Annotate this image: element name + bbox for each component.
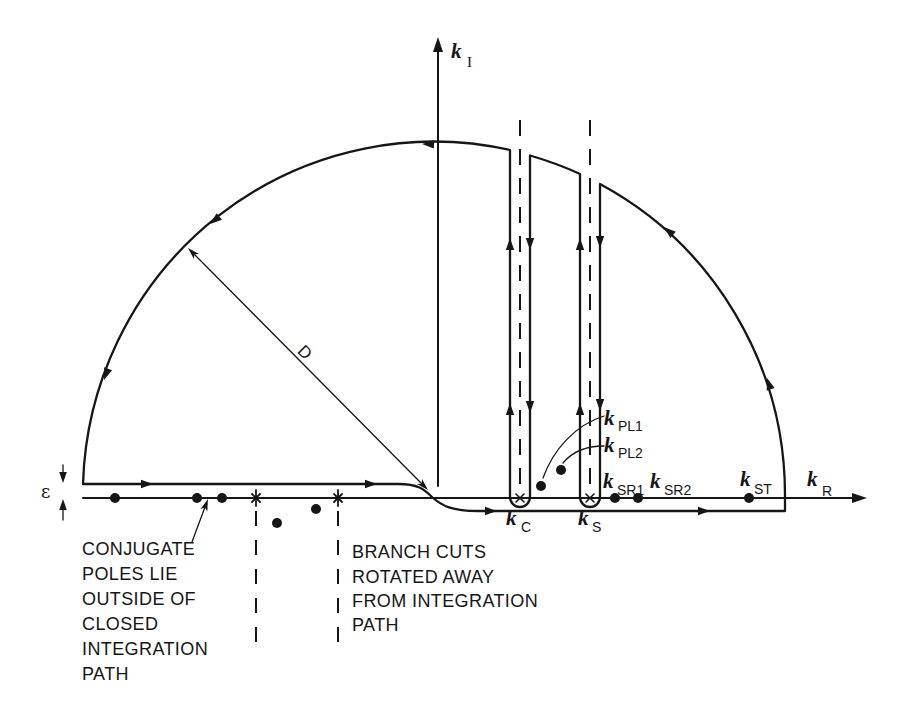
- label-symbol: k: [603, 469, 614, 493]
- arrow-up-icon: [433, 37, 443, 52]
- arrow-up-icon: [506, 238, 514, 250]
- arrow-up-icon: [506, 403, 514, 415]
- label-subscript: PL1: [618, 418, 643, 434]
- arrow-right-icon: [852, 493, 867, 503]
- pole-dot-kpl2: [556, 465, 566, 475]
- arrow-right-icon: [698, 507, 710, 515]
- pole-dot: [217, 493, 227, 503]
- pole-dot: [110, 493, 120, 503]
- arrow-right-icon: [365, 480, 377, 488]
- contour-integration-diagram: D ε: [0, 0, 907, 722]
- annotation-line: ROTATED AWAY: [352, 567, 494, 587]
- annotation-line: POLES LIE: [82, 564, 178, 584]
- pole-dot-kpl1: [536, 481, 546, 491]
- imaginary-axis: [433, 37, 443, 486]
- radius-dimension: D: [185, 245, 430, 492]
- arrow-up-icon: [576, 238, 584, 250]
- label-symbol: k: [604, 433, 615, 457]
- label-subscript: C: [521, 519, 531, 535]
- arrow-down-icon: [59, 472, 67, 483]
- arrow-down-icon: [596, 236, 604, 248]
- annotation-line: BRANCH CUTS: [352, 542, 486, 562]
- arrow-right-icon: [485, 507, 497, 515]
- label-ksr2: k SR2: [650, 469, 691, 498]
- arrow-up-icon: [576, 403, 584, 415]
- epsilon-indicator: ε: [41, 465, 67, 520]
- label-symbol: k: [604, 406, 615, 430]
- label-kst: k ST: [740, 467, 772, 497]
- label-subscript: I: [467, 54, 472, 70]
- annotation-line: INTEGRATION: [82, 639, 208, 659]
- arrow-right-icon: [141, 480, 153, 488]
- annotation-conjugate-poles: CONJUGATE POLES LIE OUTSIDE OF CLOSED IN…: [82, 498, 211, 684]
- label-kr: k R: [807, 467, 832, 499]
- annotation-line: OUTSIDE OF: [82, 589, 196, 609]
- annotation-branch-cuts: BRANCH CUTS ROTATED AWAY FROM INTEGRATIO…: [352, 542, 538, 635]
- pole-dot: [192, 493, 202, 503]
- label-subscript: PL2: [618, 445, 643, 461]
- radius-label: D: [294, 341, 316, 363]
- annotation-line: CONJUGATE: [82, 539, 195, 559]
- annotation-line: PATH: [352, 615, 399, 635]
- arrow-down-icon: [526, 401, 534, 413]
- arrow-up-icon: [201, 498, 212, 512]
- arrow-down-icon: [526, 238, 534, 250]
- annotation-line: FROM INTEGRATION: [352, 591, 538, 611]
- label-kpl1: k PL1: [604, 406, 643, 434]
- label-subscript: SR2: [664, 482, 691, 498]
- pole-dot-kst: [744, 493, 754, 503]
- label-subscript: ST: [754, 481, 772, 497]
- label-kpl2: k PL2: [604, 433, 643, 461]
- label-symbol: k: [451, 39, 462, 63]
- radius-line: [194, 254, 422, 484]
- label-subscript: S: [592, 519, 601, 535]
- annotation-line: CLOSED: [82, 614, 158, 634]
- integration-contour: [83, 142, 785, 511]
- pointer-line: [192, 507, 205, 542]
- label-ksr1: k SR1: [603, 469, 644, 498]
- conjugate-pole-dot: [311, 504, 321, 514]
- leader-kpl2: [563, 446, 604, 463]
- annotation-line: PATH: [82, 664, 129, 684]
- conjugate-pole-dot: [272, 518, 282, 528]
- label-subscript: R: [822, 483, 832, 499]
- label-symbol: k: [807, 467, 818, 491]
- label-symbol: k: [740, 467, 751, 491]
- label-symbol: k: [578, 506, 589, 530]
- label-symbol: k: [650, 469, 661, 493]
- label-symbol: k: [506, 506, 517, 530]
- arrow-down-icon: [596, 399, 604, 411]
- label-ki: k I: [451, 39, 472, 70]
- label-subscript: SR1: [617, 482, 644, 498]
- arrow-up-icon: [59, 499, 67, 510]
- epsilon-label: ε: [41, 481, 50, 502]
